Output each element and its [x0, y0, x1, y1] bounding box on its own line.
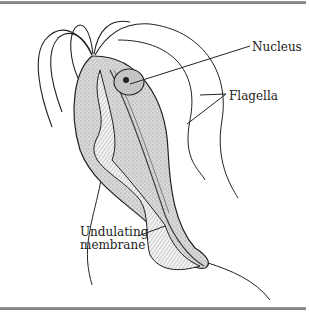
nucleus: [114, 69, 144, 95]
bottom-rule: [0, 307, 306, 310]
membrane-label-line2: membrane: [80, 239, 148, 252]
undulating-membrane-label: Undulating membrane: [80, 226, 148, 252]
nucleus-label: Nucleus: [252, 41, 302, 54]
flagella-label: Flagella: [229, 90, 278, 103]
